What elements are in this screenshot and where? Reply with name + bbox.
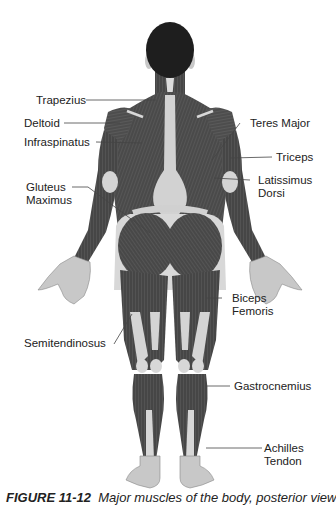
caption-number: FIGURE 11-12 xyxy=(6,490,91,505)
label-deltoid: Deltoid xyxy=(24,117,60,130)
label-latissimus-dorsi: LatissimusDorsi xyxy=(258,174,312,200)
label-gastrocnemius: Gastrocnemius xyxy=(234,380,311,393)
legs xyxy=(120,270,220,488)
label-gluteus-maximus: GluteusMaximus xyxy=(26,181,72,207)
head xyxy=(145,22,195,100)
label-biceps-femoris: BicepsFemoris xyxy=(232,292,274,318)
label-triceps: Triceps xyxy=(276,151,313,164)
figure-caption: FIGURE 11-12 Major muscles of the body, … xyxy=(6,490,336,505)
label-trapezius: Trapezius xyxy=(36,94,86,107)
torso xyxy=(104,92,236,230)
label-achilles-tendon: AchillesTendon xyxy=(264,442,304,468)
label-semitendinosus: Semitendinosus xyxy=(24,337,106,350)
label-teres-major: Teres Major xyxy=(250,117,310,130)
caption-text: Major muscles of the body, posterior vie… xyxy=(98,490,336,505)
label-infraspinatus: Infraspinatus xyxy=(24,136,90,149)
